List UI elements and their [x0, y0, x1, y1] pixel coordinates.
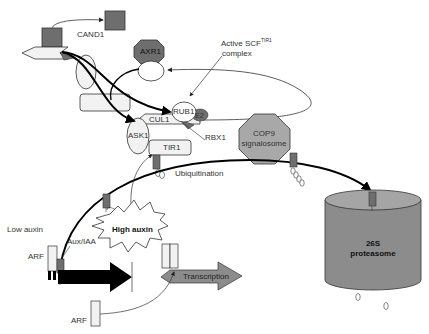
rub1-label: RUB1	[173, 108, 194, 116]
aux-iaa-on-tir1	[153, 155, 160, 169]
ubiquitin-2	[160, 172, 165, 179]
e2-label: E2	[195, 112, 204, 119]
cul1-label: CUL1	[149, 116, 169, 124]
high-auxin-label: High auxin	[112, 226, 153, 234]
arf-bottom-box	[91, 301, 100, 326]
tir1-label: TIR1	[163, 144, 180, 152]
cand1-bound-square	[42, 28, 62, 47]
arf-top-box	[48, 246, 57, 271]
released-ubiquitin-2	[384, 303, 388, 310]
rbx1-pointer	[183, 123, 205, 140]
axr1-label: AXR1	[140, 48, 161, 56]
active-scf-label-line1: Active SCF	[221, 39, 261, 48]
proteasome-label-line2: proteasome	[343, 250, 403, 258]
cand1-free-square	[105, 11, 125, 30]
promoter-element-2	[53, 271, 56, 280]
repressed-gene-arrow	[58, 262, 132, 292]
ubiquitination-label: Ubiquitination	[175, 170, 223, 178]
rbx1-label: RBX1	[205, 134, 226, 142]
axr1-partner-ellipse	[138, 61, 164, 81]
aux-iaa-intermediate	[103, 194, 110, 208]
aux-iaa-label: Aux/IAA	[67, 238, 96, 246]
cand1-release-arrow	[52, 20, 103, 28]
arf-top-label: ARF	[28, 253, 44, 261]
arf-dimer-box-1	[162, 244, 170, 268]
active-scf-label: Active SCFTIR1	[221, 40, 272, 48]
low-auxin-label: Low auxin	[7, 226, 43, 234]
aux-iaa-entering-proteasome	[369, 192, 376, 206]
promoter-element-1	[48, 271, 51, 280]
cop9-label-line1: COP9	[249, 130, 279, 138]
released-ubiquitin-1	[356, 294, 360, 301]
active-scf-pointer	[190, 56, 222, 96]
transcription-label: Transcription	[183, 273, 229, 281]
active-scf-label-line2: complex	[222, 50, 252, 58]
auxin-signaling-diagram	[0, 0, 429, 334]
aux-iaa-polyubiquitinated	[290, 153, 297, 167]
proteasome-label-line1: 26S	[353, 240, 393, 248]
cand1-label: CAND1	[77, 31, 104, 39]
ask1-label: ASK1	[128, 132, 148, 140]
cop9-label-line2: signalosome	[240, 140, 288, 148]
active-scf-superscript: TIR1	[261, 37, 272, 43]
arf-dimer-box-2	[170, 244, 178, 268]
arf-bottom-label: ARF	[71, 317, 87, 325]
